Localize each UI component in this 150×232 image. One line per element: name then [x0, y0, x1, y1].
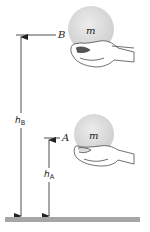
height-b-label: hB — [15, 115, 25, 127]
position-b-group: m B — [16, 6, 134, 67]
ground — [5, 217, 140, 222]
diagram-canvas: m B hB m A h — [0, 0, 150, 232]
label-b: B — [57, 29, 65, 40]
ball-a-mass-label: m — [89, 130, 98, 141]
height-a-label: hA — [44, 169, 55, 181]
position-a-group: m A — [44, 114, 134, 166]
label-a: A — [61, 132, 69, 143]
ball-b-mass-label: m — [86, 25, 95, 36]
height-b-dimension: hB — [15, 37, 25, 216]
hand-b-icon — [71, 41, 134, 67]
height-a-dimension: hA — [44, 140, 55, 216]
hand-a-icon — [74, 146, 134, 166]
